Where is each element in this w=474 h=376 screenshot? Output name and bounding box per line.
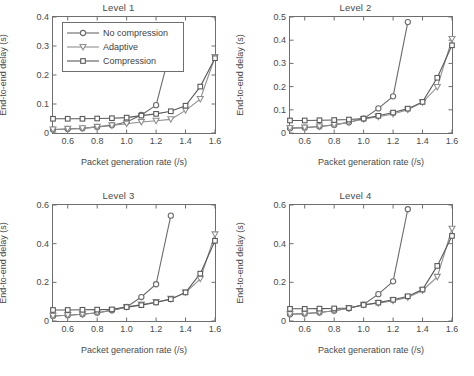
- y-tick-label: 0.6: [273, 200, 286, 210]
- x-axis-label: Packet generation rate (/s): [52, 157, 216, 167]
- figure-root: Level 1 End-to-end delay (s) 00.10.20.30…: [0, 0, 474, 376]
- subplot-level-1: Level 1 End-to-end delay (s) 00.10.20.30…: [0, 0, 237, 188]
- x-axis-label: Packet generation rate (/s): [289, 157, 453, 167]
- subplot-level-3: Level 3 End-to-end delay (s) 00.20.40.6 …: [0, 188, 237, 376]
- y-axis-label: End-to-end delay (s): [234, 204, 246, 322]
- x-tick-label: 1.0: [120, 324, 133, 334]
- x-tick-label: 1.6: [209, 136, 222, 146]
- x-tick-label: 1.4: [179, 136, 192, 146]
- plot-area: [289, 204, 453, 322]
- x-tick-label: 1.6: [446, 324, 459, 334]
- x-tick-label: 0.8: [328, 324, 341, 334]
- legend: No compressionAdaptiveCompression: [62, 22, 184, 72]
- y-tick-label: 0.4: [36, 12, 49, 22]
- subplot-level-4: Level 4 End-to-end delay (s) 00.20.40.6 …: [237, 188, 474, 376]
- plot-area: [289, 16, 453, 134]
- x-tick-label: 0.8: [91, 136, 104, 146]
- y-tick-label: 0.5: [273, 12, 286, 22]
- y-tick-label: 0: [44, 128, 49, 138]
- x-axis-label: Packet generation rate (/s): [289, 345, 453, 355]
- x-tick-label: 1.2: [387, 136, 400, 146]
- legend-label: Compression: [103, 56, 156, 66]
- legend-marker-triangle-down-icon: [66, 41, 100, 53]
- y-tick-labels: 00.20.40.6: [18, 204, 49, 322]
- y-tick-label: 0.3: [36, 41, 49, 51]
- y-tick-label: 0: [281, 316, 286, 326]
- y-tick-label: 0.4: [273, 35, 286, 45]
- y-tick-label: 0.4: [36, 239, 49, 249]
- legend-label: No compression: [103, 28, 168, 38]
- y-tick-label: 0: [44, 316, 49, 326]
- y-tick-label: 0.2: [273, 82, 286, 92]
- y-tick-label: 0.1: [36, 99, 49, 109]
- x-tick-label: 1.0: [120, 136, 133, 146]
- x-tick-label: 1.4: [416, 136, 429, 146]
- legend-item: Adaptive: [66, 40, 179, 54]
- legend-item: No compression: [66, 26, 179, 40]
- y-axis-label: End-to-end delay (s): [0, 16, 9, 134]
- x-tick-label: 1.4: [179, 324, 192, 334]
- y-tick-label: 0.2: [36, 70, 49, 80]
- y-tick-label: 0.2: [273, 277, 286, 287]
- legend-marker-circle-icon: [66, 27, 100, 39]
- plot-svg: [290, 205, 452, 321]
- legend-marker-square-icon: [66, 55, 100, 67]
- y-axis-label: End-to-end delay (s): [0, 204, 9, 322]
- x-tick-label: 0.6: [298, 136, 311, 146]
- y-tick-label: 0.4: [273, 239, 286, 249]
- y-axis-label: End-to-end delay (s): [234, 16, 246, 134]
- x-axis-label: Packet generation rate (/s): [52, 345, 216, 355]
- x-tick-label: 1.2: [150, 136, 163, 146]
- y-tick-label: 0.6: [36, 200, 49, 210]
- y-tick-label: 0.1: [273, 105, 286, 115]
- y-tick-label: 0.2: [36, 277, 49, 287]
- plot-svg: [53, 205, 215, 321]
- plot-area: [52, 204, 216, 322]
- x-tick-label: 0.6: [61, 324, 74, 334]
- x-tick-label: 1.2: [150, 324, 163, 334]
- subplot-level-2: Level 2 End-to-end delay (s) 00.10.20.30…: [237, 0, 474, 188]
- y-tick-label: 0: [281, 128, 286, 138]
- x-tick-label: 1.6: [446, 136, 459, 146]
- x-tick-label: 0.6: [61, 136, 74, 146]
- x-tick-label: 0.6: [298, 324, 311, 334]
- x-tick-label: 1.4: [416, 324, 429, 334]
- legend-label: Adaptive: [103, 42, 138, 52]
- y-tick-labels: 00.10.20.30.40.5: [255, 16, 286, 134]
- plot-svg: [290, 17, 452, 133]
- y-tick-labels: 00.20.40.6: [255, 204, 286, 322]
- x-tick-label: 1.0: [357, 136, 370, 146]
- x-tick-label: 0.8: [91, 324, 104, 334]
- x-tick-label: 0.8: [328, 136, 341, 146]
- x-tick-label: 1.6: [209, 324, 222, 334]
- y-tick-labels: 00.10.20.30.4: [18, 16, 49, 134]
- legend-item: Compression: [66, 54, 179, 68]
- y-tick-label: 0.3: [273, 58, 286, 68]
- x-tick-label: 1.2: [387, 324, 400, 334]
- x-tick-label: 1.0: [357, 324, 370, 334]
